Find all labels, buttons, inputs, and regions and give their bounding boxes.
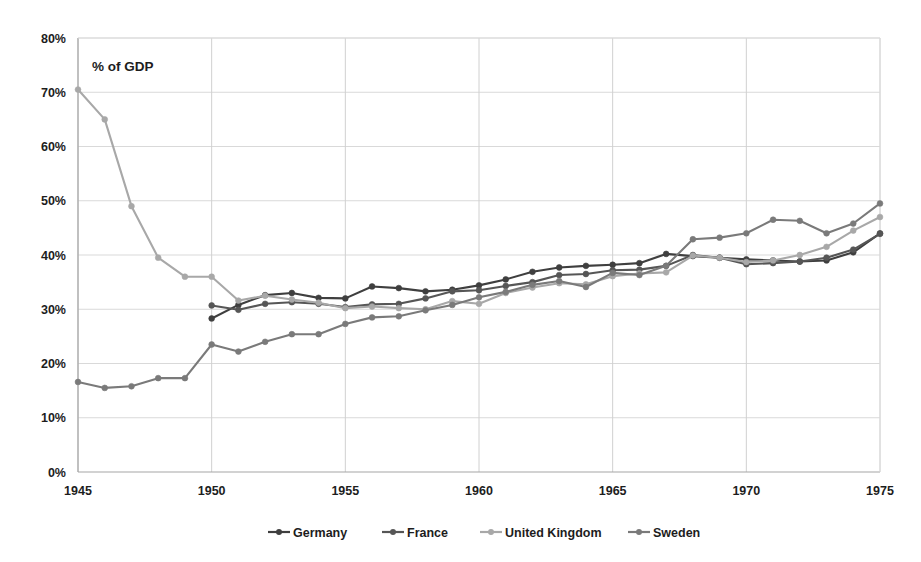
data-point <box>262 339 268 345</box>
y-tick-label: 70% <box>41 86 66 100</box>
data-point <box>449 288 455 294</box>
y-tick-label: 80% <box>41 32 66 46</box>
data-point <box>396 285 402 291</box>
legend-item-germany[interactable]: Germany <box>268 526 347 540</box>
data-point <box>289 290 295 296</box>
legend-item-united-kingdom[interactable]: United Kingdom <box>480 526 602 540</box>
data-point <box>396 305 402 311</box>
data-point <box>236 349 242 355</box>
data-point <box>877 214 883 220</box>
data-point <box>369 284 375 290</box>
data-point <box>342 305 348 311</box>
y-tick-label: 40% <box>41 249 66 263</box>
data-point <box>556 272 562 278</box>
line-chart: 0%10%20%30%40%50%60%70%80% 1945195019551… <box>0 0 921 562</box>
x-tick-label: 1970 <box>732 484 760 498</box>
data-point <box>743 230 749 236</box>
data-point <box>690 236 696 242</box>
data-point <box>129 203 135 209</box>
data-point <box>316 300 322 306</box>
legend-marker <box>636 529 642 535</box>
x-tick-label: 1975 <box>866 484 894 498</box>
data-point <box>209 316 215 322</box>
data-point <box>316 331 322 337</box>
data-point <box>877 201 883 207</box>
data-point <box>770 217 776 223</box>
data-point <box>583 263 589 269</box>
data-point <box>236 307 242 313</box>
data-point <box>877 231 883 237</box>
x-axis-tick-labels: 1945195019551960196519701975 <box>64 484 894 498</box>
data-point <box>530 269 536 275</box>
data-point <box>850 221 856 227</box>
y-tick-label: 20% <box>41 357 66 371</box>
legend-marker <box>276 529 282 535</box>
data-point <box>637 260 643 266</box>
data-point <box>476 294 482 300</box>
data-point <box>583 284 589 290</box>
data-point <box>556 278 562 284</box>
data-point <box>342 296 348 302</box>
data-point <box>182 375 188 381</box>
data-point <box>850 228 856 234</box>
data-point <box>155 375 161 381</box>
x-tick-label: 1965 <box>599 484 627 498</box>
y-axis-tick-labels: 0%10%20%30%40%50%60%70%80% <box>41 32 66 480</box>
data-point <box>155 255 161 261</box>
data-point <box>476 301 482 307</box>
data-point <box>449 302 455 308</box>
x-tick-label: 1950 <box>198 484 226 498</box>
data-point <box>583 271 589 277</box>
legend-item-france[interactable]: France <box>382 526 448 540</box>
data-point <box>556 265 562 271</box>
data-point <box>342 321 348 327</box>
data-point <box>423 288 429 294</box>
data-point <box>102 385 108 391</box>
y-tick-label: 50% <box>41 194 66 208</box>
data-point <box>129 383 135 389</box>
data-point <box>797 259 803 265</box>
x-tick-label: 1955 <box>331 484 359 498</box>
data-point <box>262 301 268 307</box>
chart-legend: GermanyFranceUnited KingdomSweden <box>268 526 700 540</box>
chart-container: 0%10%20%30%40%50%60%70%80% 1945195019551… <box>0 0 921 562</box>
chart-annotation: % of GDP <box>92 59 154 74</box>
data-point <box>102 116 108 122</box>
data-point <box>289 297 295 303</box>
data-point <box>824 230 830 236</box>
data-point <box>610 270 616 276</box>
y-tick-label: 60% <box>41 140 66 154</box>
data-point <box>75 87 81 93</box>
data-point <box>717 235 723 241</box>
data-point <box>743 259 749 265</box>
data-point <box>209 342 215 348</box>
data-point <box>717 255 723 261</box>
data-point <box>75 379 81 385</box>
data-point <box>503 277 509 283</box>
data-point <box>209 303 215 309</box>
data-point <box>663 263 669 269</box>
data-point <box>209 274 215 280</box>
data-point <box>530 282 536 288</box>
legend-label: United Kingdom <box>505 526 602 540</box>
data-point <box>503 283 509 289</box>
data-point <box>369 304 375 310</box>
data-point <box>637 272 643 278</box>
data-point <box>824 244 830 250</box>
data-point <box>824 255 830 261</box>
data-point <box>423 307 429 313</box>
legend-item-sweden[interactable]: Sweden <box>628 526 700 540</box>
data-point <box>503 289 509 295</box>
y-tick-label: 10% <box>41 411 66 425</box>
data-point <box>690 253 696 259</box>
data-point <box>850 247 856 253</box>
x-tick-label: 1945 <box>64 484 92 498</box>
data-point <box>289 331 295 337</box>
data-point <box>797 252 803 258</box>
y-tick-label: 30% <box>41 303 66 317</box>
legend-label: Sweden <box>653 526 700 540</box>
data-point <box>423 296 429 302</box>
data-point <box>236 298 242 304</box>
y-tick-label: 0% <box>48 466 66 480</box>
data-point <box>770 258 776 264</box>
